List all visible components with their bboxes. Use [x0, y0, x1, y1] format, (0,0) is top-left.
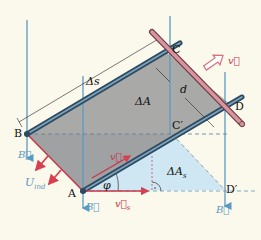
delta-as-label: ΔAs: [167, 166, 186, 180]
delta-s-label: Δs: [86, 76, 100, 87]
point-c-prime: C′: [172, 120, 183, 131]
delta-a-label: ΔA: [135, 96, 151, 107]
b-field-label: B⃗: [86, 202, 99, 212]
vs-label: v⃗s: [115, 199, 130, 212]
point-d-prime: D′: [226, 184, 237, 195]
velocity-arrow-icon: [202, 50, 227, 72]
d-label: d: [180, 84, 187, 95]
b-field-label: B⃗: [216, 205, 229, 215]
point-c: C: [172, 44, 180, 55]
point-a: A: [68, 188, 76, 199]
phi-label: φ: [103, 180, 111, 191]
b-field-label: B⃗: [18, 150, 31, 160]
point-b: B: [14, 128, 22, 139]
point-d: D: [235, 101, 244, 112]
v-label: v⃗: [110, 152, 122, 162]
u-ind-label: Uind: [25, 177, 46, 191]
v-arrow-label: v⃗: [228, 56, 240, 66]
